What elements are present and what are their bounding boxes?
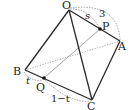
label-A: A <box>117 40 127 53</box>
edge-BA-hidden <box>25 41 120 70</box>
label-P: P <box>102 20 110 33</box>
arc-OA-3 <box>70 7 120 40</box>
label-s: s <box>85 10 90 21</box>
edge-AC <box>92 41 120 100</box>
label-3: 3 <box>99 8 105 19</box>
edge-OC <box>69 10 92 100</box>
label-1-minus-t: 1−t <box>51 93 70 104</box>
label-O: O <box>62 0 71 12</box>
label-Q: Q <box>36 81 45 94</box>
edge-OB <box>25 10 69 70</box>
edge-OA <box>69 10 120 41</box>
label-B: B <box>13 65 21 78</box>
segment-PQ <box>44 29 100 78</box>
label-C: C <box>87 100 95 110</box>
tetrahedron-diagram: O A B C P Q s 3 t 1−t <box>0 0 131 110</box>
point-Q <box>42 76 46 80</box>
label-t: t <box>26 75 31 86</box>
